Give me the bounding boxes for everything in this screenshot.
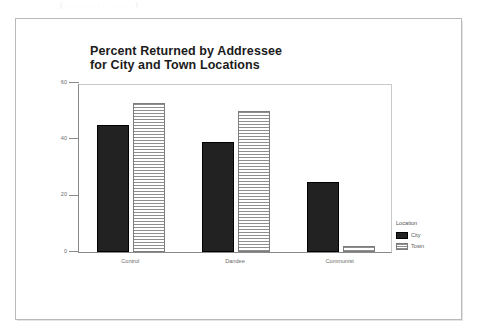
legend-item-town[interactable]: Town [396,242,424,250]
legend-entries: CityTown [396,231,424,250]
cropped-header-text: ( . . . . . . . . . . . . . . . ) [60,1,330,10]
bar-communist-town [343,246,375,252]
chart-screenshot: ( . . . . . . . . . . . . . . . ) Percen… [0,0,478,330]
bar-control-city [97,125,129,252]
x-axis-tick-label: Control [76,257,184,265]
y-axis-tick-label: 0 [64,247,67,255]
y-axis-tick: 20 [69,195,79,196]
x-axis-tick-label: Dandee [181,257,289,265]
x-axis-tick-label: Communist [286,257,394,265]
legend-item-label: Town [411,242,424,250]
page-title: Percent Returned by Addressee for City a… [90,44,420,72]
bar-dandee-town [238,111,270,252]
bar-communist-city [307,182,339,252]
y-axis-tick-label: 20 [61,190,67,198]
horizontal-hatch-swatch [396,243,408,250]
y-axis-tick: 60 [69,82,79,83]
solid-black-swatch [396,232,408,239]
y-axis-tick: 0 [69,251,79,252]
bar-dandee-city [202,142,234,252]
bar-control-town [133,103,165,252]
chart-legend: Location CityTown [396,219,424,253]
chart-title-line-2: for City and Town Locations [90,58,420,72]
y-axis-tick: 40 [69,138,79,139]
chart-title-line-1: Percent Returned by Addressee [90,44,282,58]
y-axis-tick-label: 40 [61,134,67,142]
y-axis-tick-label: 60 [61,78,67,86]
plot-area: 0204060 [78,84,392,253]
legend-item-city[interactable]: City [396,231,424,239]
legend-title: Location [396,219,424,227]
legend-item-label: City [411,231,421,239]
